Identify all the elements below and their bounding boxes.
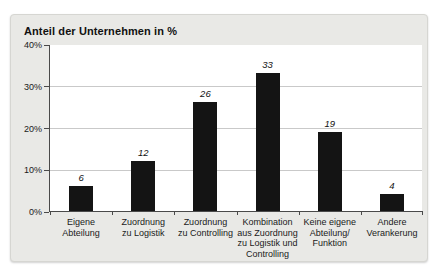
page: Anteil der Unternehmen in % 0%10%20%30%4… — [0, 0, 438, 272]
plot-area: 0%10%20%30%40%6Eigene Abteilung12Zuordnu… — [49, 45, 422, 212]
x-category-label: Zuordnung zu Logistik — [112, 217, 174, 238]
bar-value-label: 4 — [372, 180, 412, 191]
bar — [380, 194, 404, 211]
x-axis-tick — [237, 211, 238, 215]
y-axis-tick — [44, 128, 49, 129]
bar — [256, 73, 280, 211]
y-axis-tick-label: 0% — [12, 207, 42, 217]
y-axis-tick-label: 40% — [12, 40, 42, 50]
x-axis-tick — [361, 211, 362, 215]
gridline — [50, 170, 422, 171]
x-category-label: Kombination aus Zuordnung zu Logistik un… — [237, 217, 299, 259]
chart-title: Anteil der Unternehmen in % — [24, 25, 177, 37]
y-axis-tick-label: 10% — [12, 165, 42, 175]
x-category-label: Eigene Abteilung — [50, 217, 112, 238]
y-axis-tick — [44, 86, 49, 87]
y-axis-tick-label: 30% — [12, 82, 42, 92]
gridline — [50, 86, 422, 87]
x-category-label: Andere Verankerung — [361, 217, 423, 238]
x-category-label: Zuordnung zu Controlling — [174, 217, 236, 238]
y-axis-tick-label: 20% — [12, 124, 42, 134]
x-axis-tick — [174, 211, 175, 215]
bar-value-label: 33 — [248, 59, 288, 70]
x-axis-tick — [112, 211, 113, 215]
x-axis-tick — [299, 211, 300, 215]
y-axis-tick — [44, 45, 49, 46]
bar — [131, 161, 155, 211]
y-axis-tick — [44, 170, 49, 171]
bar — [318, 132, 342, 211]
gridline — [50, 128, 422, 129]
bar-value-label: 26 — [185, 88, 225, 99]
x-category-label: Keine eigene Abteilung/ Funktion — [299, 217, 361, 249]
bar-value-label: 19 — [310, 118, 350, 129]
x-axis-tick — [50, 211, 51, 215]
x-axis-tick — [422, 211, 423, 215]
bar — [69, 186, 93, 211]
chart-card: Anteil der Unternehmen in % 0%10%20%30%4… — [10, 14, 428, 262]
y-axis-tick — [44, 212, 49, 213]
bar-value-label: 6 — [61, 172, 101, 183]
bar — [193, 102, 217, 211]
bar-value-label: 12 — [123, 147, 163, 158]
